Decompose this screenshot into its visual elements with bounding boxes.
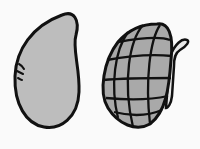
- corn-cob-icon: [103, 24, 188, 127]
- bean-icon: [15, 14, 79, 128]
- illustration-canvas: [0, 0, 200, 149]
- illustration-svg: [0, 0, 200, 149]
